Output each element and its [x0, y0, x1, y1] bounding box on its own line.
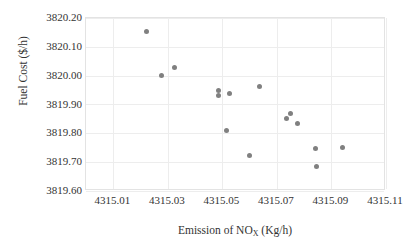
x-axis-title-units: (Kg/h) [258, 224, 292, 236]
scatter-chart-figure: Fuel Cost ($/h) 3819.603819.703819.80381… [0, 0, 419, 248]
x-axis-title: Emission of NOX (Kg/h) [85, 224, 385, 238]
x-axis-tick-labels: 4315.014315.034315.054315.074315.094315.… [0, 0, 419, 248]
x-tick-label: 4315.11 [340, 194, 419, 206]
x-axis-title-main: Emission of NO [178, 224, 253, 236]
